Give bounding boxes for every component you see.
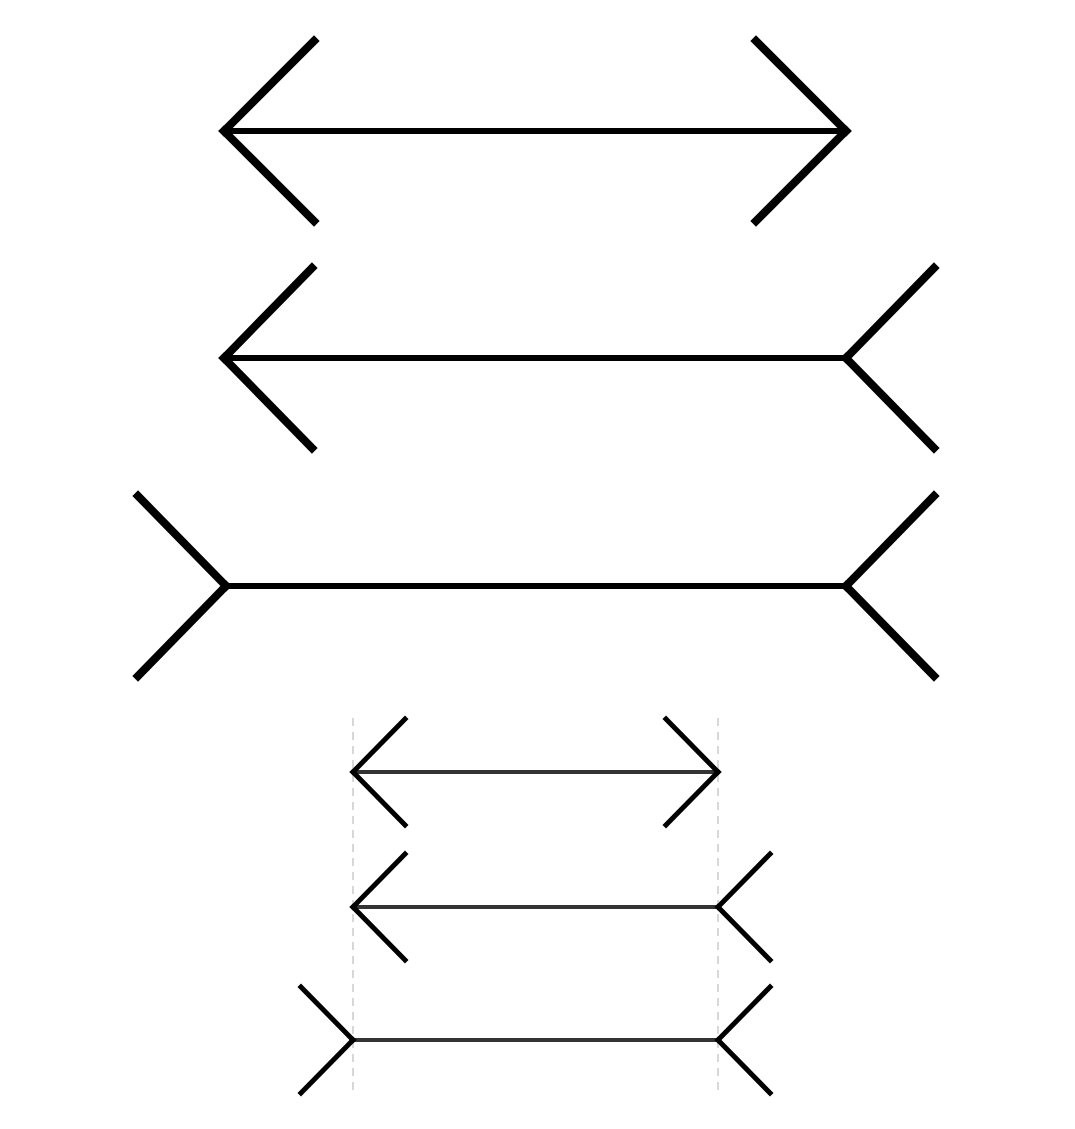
left-arrowhead-fin-upper	[353, 719, 405, 772]
left-arrowhead-fin-lower	[224, 358, 312, 448]
left-arrowhead-fin-upper	[353, 854, 405, 907]
left-arrowhead-fin-lower	[353, 907, 405, 960]
left-arrowhead-fin-upper	[224, 41, 314, 131]
figure-small-1	[353, 719, 718, 825]
figure-small-2	[353, 854, 770, 960]
right-tail-fin-upper	[846, 268, 934, 358]
right-arrowhead-fin-upper	[756, 41, 846, 131]
left-tail-fin-lower	[301, 1040, 353, 1093]
left-arrowhead-fin-upper	[224, 268, 312, 358]
right-tail-fin-lower	[718, 1040, 770, 1093]
muller-lyer-diagram	[0, 0, 1075, 1129]
small-figures-group	[301, 719, 770, 1093]
right-arrowhead-fin-upper	[666, 719, 718, 772]
right-tail-fin-lower	[718, 907, 770, 960]
left-arrowhead-fin-lower	[224, 131, 314, 221]
right-tail-fin-lower	[846, 586, 934, 676]
right-tail-fin-upper	[718, 854, 770, 907]
right-tail-fin-lower	[846, 358, 934, 448]
figure-large-1	[224, 41, 846, 221]
large-figures-group	[138, 41, 934, 676]
right-arrowhead-fin-lower	[666, 772, 718, 825]
right-tail-fin-upper	[846, 496, 934, 586]
left-tail-fin-lower	[138, 586, 226, 676]
figure-small-3	[301, 987, 770, 1093]
illusion-canvas	[0, 0, 1075, 1129]
right-tail-fin-upper	[718, 987, 770, 1040]
left-tail-fin-upper	[301, 987, 353, 1040]
right-arrowhead-fin-lower	[756, 131, 846, 221]
figure-large-2	[224, 268, 934, 448]
left-arrowhead-fin-lower	[353, 772, 405, 825]
figure-large-3	[138, 496, 934, 676]
left-tail-fin-upper	[138, 496, 226, 586]
